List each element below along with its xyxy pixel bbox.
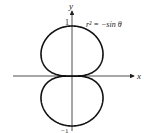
y-axis-label: y — [68, 1, 73, 11]
tick-label-bottom: −1 — [61, 127, 69, 133]
equation-label: r² = −sin θ — [86, 20, 122, 29]
x-axis-label: x — [136, 71, 141, 81]
tick-label-top: 1 — [65, 18, 69, 27]
polar-graph: x y 1 −1 r² = −sin θ — [0, 0, 144, 133]
